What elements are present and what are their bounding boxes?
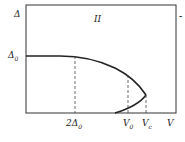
y-axis-label: Δ — [14, 10, 21, 19]
x-tick-vc: Vc — [142, 119, 152, 130]
gap-curve-lower — [115, 95, 146, 113]
y-tick-delta0: Δ0 — [8, 51, 18, 62]
x-axis-label: V — [167, 119, 174, 128]
region-label: II — [94, 15, 101, 24]
right-edge-mark: ˗ — [179, 12, 183, 21]
x-tick-2delta0: 2Δ0 — [66, 119, 82, 130]
x-tick-v0: V0 — [123, 119, 133, 130]
phase-diagram — [0, 0, 185, 142]
